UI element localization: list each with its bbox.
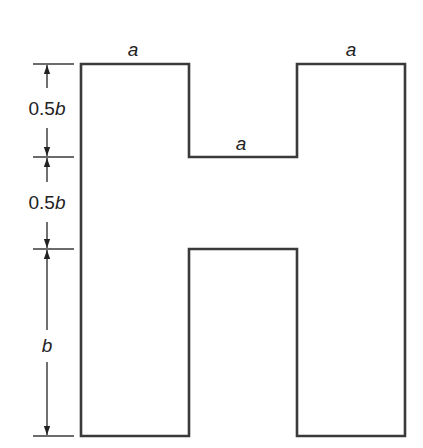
width-label-web-gap: a (236, 133, 247, 154)
width-label-right-flange: a (346, 39, 357, 60)
h-shape-diagram: 0.5b 0.5b b a a a (0, 0, 423, 448)
h-shape-outline (81, 64, 405, 436)
dimension-label-bottom: b (42, 335, 53, 356)
dimension-label-middle: 0.5b (29, 192, 66, 213)
dimension-ticks (33, 64, 74, 436)
width-label-left-flange: a (128, 39, 139, 60)
dimension-label-top: 0.5b (29, 98, 66, 119)
